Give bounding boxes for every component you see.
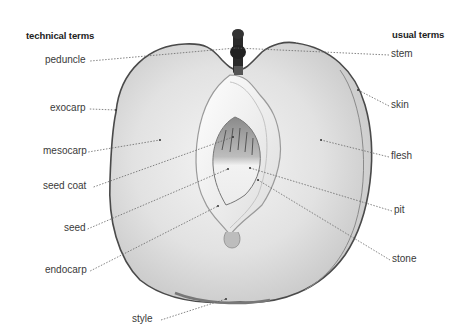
label-seed-coat: seed coat — [43, 180, 86, 192]
label-stone: stone — [392, 253, 416, 265]
label-skin: skin — [391, 99, 409, 111]
technical-terms-header: technical terms — [26, 30, 94, 41]
label-endocarp: endocarp — [45, 264, 87, 276]
style-cavity — [224, 232, 240, 248]
label-style: style — [132, 313, 153, 325]
label-flesh: flesh — [391, 150, 412, 162]
label-peduncle: peduncle — [45, 54, 86, 66]
label-exocarp: exocarp — [50, 102, 86, 114]
label-mesocarp: mesocarp — [43, 145, 87, 157]
label-seed: seed — [64, 222, 86, 234]
label-pit: pit — [394, 204, 405, 216]
usual-terms-header: usual terms — [392, 29, 444, 40]
label-stem: stem — [391, 48, 413, 60]
